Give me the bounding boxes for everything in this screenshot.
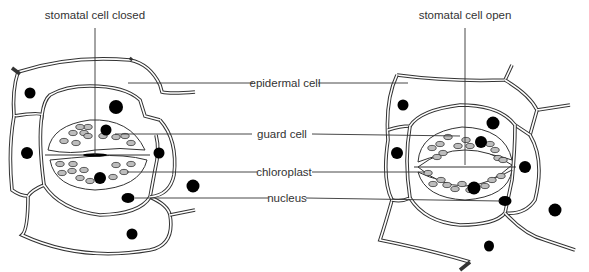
closed-stoma-figure: [10, 58, 199, 254]
label-nucleus: nucleus: [267, 192, 307, 204]
open-stoma-figure: [380, 65, 575, 270]
label-epidermal-cell: epidermal cell: [250, 77, 321, 89]
label-guard-cell: guard cell: [257, 128, 307, 140]
caption-open: stomatal cell open: [419, 9, 512, 21]
label-chloroplast: chloroplast: [256, 166, 312, 178]
stomata-diagram: stomatal cell closed stomatal cell open …: [0, 0, 589, 272]
caption-closed: stomatal cell closed: [45, 9, 145, 21]
